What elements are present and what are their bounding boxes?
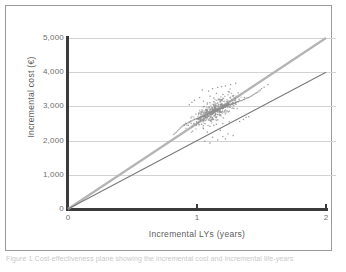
scatter-point [217,87,218,88]
scatter-point [214,106,215,107]
scatter-point [192,130,193,131]
scatter-point [204,116,205,117]
scatter-point [223,112,224,113]
scatter-point [213,101,214,102]
scatter-point [212,117,213,118]
scatter-point [230,84,231,85]
scatter-point [193,119,194,120]
scatter-point [230,107,231,108]
scatter-point [225,85,226,86]
scatter-point [229,111,230,112]
scatter-point [195,118,196,119]
scatter-point [216,124,217,125]
scatter-point [202,111,203,112]
scatter-point [260,89,261,90]
scatter-point [217,119,218,120]
scatter-point [216,103,217,104]
scatter-point [208,111,209,112]
scatter-point [224,110,225,111]
scatter-point [245,98,246,99]
scatter-point [233,105,234,106]
scatter-point [247,97,248,98]
scatter-point [229,121,230,122]
scatter-point [208,90,209,91]
scatter-point [224,96,225,97]
scatter-point [243,99,244,100]
scatter-point [248,116,249,117]
scatter-point [212,113,213,114]
scatter-point [211,107,212,108]
scatter-point [212,88,213,89]
scatter-point [205,116,206,117]
scatter-point [200,120,201,121]
scatter-point [245,117,246,118]
scatter-point [233,95,234,96]
scatter-point [185,128,186,129]
scatter-point [222,98,223,99]
scatter-point [231,93,232,94]
scatter-point [207,131,208,132]
scatter-point [210,111,211,112]
scatter-point [226,99,227,100]
scatter-point [193,123,194,124]
scatter-point [207,102,208,103]
scatter-point [249,96,250,97]
scatter-point [237,108,238,109]
scatter-point [194,100,195,101]
scatter-point [213,125,214,126]
scatter-point [218,105,219,106]
scatter-point [226,104,227,105]
scatter-point [210,114,211,115]
scatter-point [209,109,210,110]
scatter-point [252,95,253,96]
scatter-point [212,104,213,105]
scatter-point [198,124,199,125]
scatter-point [180,127,181,128]
scatter-point [199,97,200,98]
scatter-point [220,108,221,109]
scatter-point [220,106,221,107]
scatter-point [198,113,199,114]
scatter-point [239,121,240,122]
scatter-point [235,100,236,101]
scatter-point [229,91,230,92]
scatter-point [232,104,233,105]
scatter-point [239,100,240,101]
scatter-point [221,99,222,100]
scatter-point [190,123,191,124]
scatter-point [176,131,177,132]
scatter-point [206,107,207,108]
scatter-point [233,108,234,109]
scatter-point [188,121,189,122]
scatter-point [238,99,239,100]
scatter-point [173,134,174,135]
scatter-point [200,116,201,117]
scatter-point [191,120,192,121]
scatter-point [188,125,189,126]
scatter-point [194,119,195,120]
scatter-point [209,120,210,121]
scatter-point [198,114,199,115]
scatter-point [243,119,244,120]
scatter-point [191,126,192,127]
scatter-point [207,117,208,118]
scatter-point [237,96,238,97]
scatter-point [209,118,210,119]
scatter-point [193,117,194,118]
scatter-point [203,122,204,123]
scatter-point [219,99,220,100]
scatter-point [215,114,216,115]
scatter-point [212,119,213,120]
scatter-point [212,137,213,138]
scatter-point [208,116,209,117]
scatter-point [214,116,215,117]
scatter-point [224,101,225,102]
scatter-point [233,96,234,97]
scatter-point [216,100,217,101]
scatter-point [186,124,187,125]
scatter-point [214,111,215,112]
scatter-point [204,141,205,142]
scatter-point [189,104,190,105]
scatter-point [216,107,217,108]
scatter-point [244,97,245,98]
